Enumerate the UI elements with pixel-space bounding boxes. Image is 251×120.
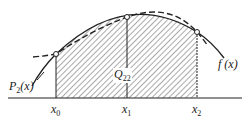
node-x2 (195, 30, 200, 35)
label-p2: P2(x) (9, 80, 34, 95)
label-x1: x1 (122, 103, 131, 118)
label-q22: Q22 (113, 68, 132, 83)
x1-sub: 1 (127, 109, 131, 118)
label-fx: f (x) (218, 58, 238, 70)
q-sub: 22 (123, 74, 131, 83)
node-x1 (125, 15, 130, 20)
q-main: Q (114, 67, 123, 81)
x2-sub: 2 (197, 109, 201, 118)
p2-tail: (x) (20, 79, 33, 93)
node-x0 (54, 52, 59, 57)
x0-sub: 0 (56, 109, 60, 118)
label-x2: x2 (192, 103, 201, 118)
label-x0: x0 (51, 103, 60, 118)
